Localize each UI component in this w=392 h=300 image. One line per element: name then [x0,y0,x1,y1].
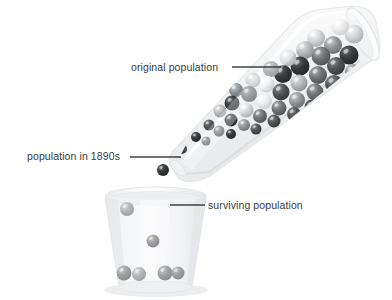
marble [157,164,169,176]
marble [273,84,290,101]
marble [327,57,345,75]
cup-base [119,281,192,293]
illustration-canvas: original population population in 1890s … [0,0,392,300]
label-original-population: original population [131,61,218,73]
marble-specular-highlight [324,94,330,100]
marble [253,109,267,123]
marble [287,107,301,121]
marble [291,75,308,92]
cup-frost-veil [105,198,206,292]
marble-specular-highlight [344,83,350,88]
label-population-1890s: population in 1890s [27,150,120,162]
beaker-cup [105,187,206,293]
marble [256,93,272,109]
marble [251,124,262,135]
marble [268,115,281,128]
marble [272,101,287,116]
marble [342,82,357,97]
marble [307,84,324,101]
marble [238,119,250,131]
marble [226,129,236,139]
label-surviving-population: surviving population [208,199,303,211]
marble [289,92,305,108]
tilted-test-tube [168,4,385,182]
marbles-falling [157,164,169,176]
marble [309,66,327,84]
